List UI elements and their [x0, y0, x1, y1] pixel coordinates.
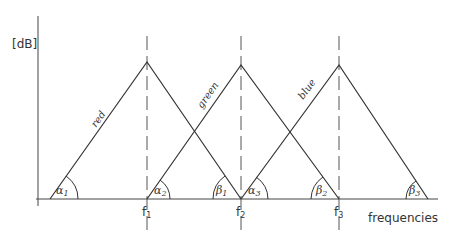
alpha2-label: α2	[154, 184, 167, 198]
red-label: red	[89, 109, 108, 129]
green-label: green	[195, 80, 221, 110]
beta2-label: β2	[315, 184, 327, 198]
alpha3-label: α3	[248, 184, 261, 198]
alpha1-label: α1	[56, 184, 69, 198]
filter-response-diagram: α1 α2 β1 α3 β2 β3 red green blue f1 f2 f…	[0, 0, 452, 240]
x-axis-label: frequencies	[368, 211, 438, 225]
blue-curve	[241, 65, 428, 199]
blue-label: blue	[296, 77, 318, 101]
beta3-label: β3	[408, 184, 420, 198]
beta1-label: β1	[215, 184, 227, 198]
y-axis-label: [dB]	[12, 37, 37, 51]
